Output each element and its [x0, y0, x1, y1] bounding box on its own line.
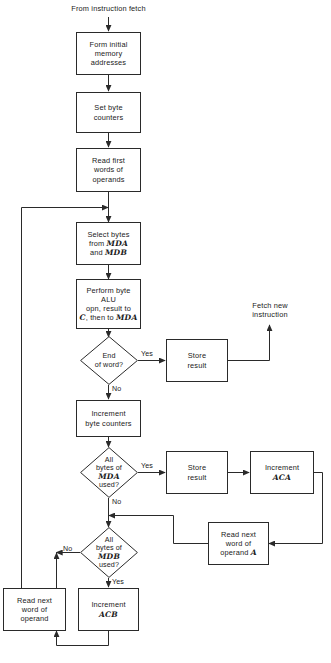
edge-label-mda-yes: Yes: [141, 462, 153, 470]
node-line: opn, result to: [78, 304, 139, 313]
node-text: , then to: [86, 313, 116, 322]
edge-label-mdb-yes: Yes: [112, 578, 124, 586]
register-acb: ACB: [80, 610, 137, 619]
node-text: operand: [220, 548, 250, 557]
node-line: operands: [78, 175, 139, 184]
node-line: of word?: [80, 361, 138, 369]
node-line: Read first: [78, 156, 139, 165]
node-line: Perform byte: [78, 286, 139, 295]
flowchart-canvas: From instruction fetch Form initial memo…: [0, 0, 331, 663]
start-label: From instruction fetch: [60, 4, 157, 13]
fetch-new-instruction-label: Fetch new instruction: [238, 301, 302, 320]
operand-a: A: [251, 548, 257, 557]
node-line: Read next: [210, 530, 267, 539]
node-line: Store: [168, 351, 226, 360]
node-line: words of: [78, 165, 139, 174]
node-line: operand A: [210, 548, 267, 557]
node-text: and: [90, 248, 105, 257]
node-increment-aca[interactable]: Increment ACA: [250, 451, 314, 494]
decision-end-of-word[interactable]: End of word?: [80, 336, 138, 385]
node-line: Increment: [252, 463, 312, 472]
node-line: from MDA: [78, 239, 139, 248]
node-line: Form initial: [78, 40, 139, 49]
node-line: Increment: [80, 600, 137, 609]
node-read-first-words-of-operands[interactable]: Read first words of operands: [76, 148, 141, 192]
decision-all-bytes-mda-used[interactable]: All bytes of MDA used?: [80, 447, 138, 498]
node-line: Read next: [5, 596, 64, 605]
node-line: memory: [78, 49, 139, 58]
node-increment-byte-counters[interactable]: Increment byte counters: [76, 400, 141, 437]
node-line: ALU: [78, 295, 139, 304]
node-line: Select bytes: [78, 230, 139, 239]
node-line: Store: [168, 463, 226, 472]
register-mdb: MDB: [105, 248, 127, 257]
node-read-next-word-operand[interactable]: Read next word of operand: [3, 588, 66, 631]
node-line: byte counters: [78, 419, 139, 428]
start-label-text: From instruction fetch: [71, 4, 145, 13]
node-line: C, then to MDA: [78, 313, 139, 322]
node-line: word of: [210, 539, 267, 548]
node-line: Set byte: [78, 103, 139, 112]
edge-label-end-word-no: No: [112, 385, 121, 393]
node-increment-acb[interactable]: Increment ACB: [78, 588, 139, 631]
node-line: result: [168, 361, 226, 370]
node-line: result: [168, 473, 226, 482]
register-mda: MDA: [116, 313, 137, 322]
node-line: addresses: [78, 58, 139, 67]
node-line: operand: [5, 614, 64, 623]
node-line: used?: [80, 561, 138, 569]
register-mda: MDA: [107, 239, 128, 248]
node-store-result-top[interactable]: Store result: [166, 339, 228, 382]
decision-all-bytes-mdb-used[interactable]: All bytes of MDB used?: [80, 527, 138, 578]
node-perform-byte-alu[interactable]: Perform byte ALU opn, result to C, then …: [76, 279, 141, 329]
node-line: instruction: [238, 310, 302, 319]
register-aca: ACA: [252, 473, 312, 482]
node-form-initial-memory-addresses[interactable]: Form initial memory addresses: [76, 32, 141, 75]
node-select-bytes[interactable]: Select bytes from MDA and MDB: [76, 222, 141, 265]
connector-lines: [0, 0, 331, 663]
node-line: counters: [78, 113, 139, 122]
node-line: and MDB: [78, 248, 139, 257]
node-read-next-word-operand-a[interactable]: Read next word of operand A: [208, 522, 269, 565]
node-line: Increment: [78, 409, 139, 418]
node-line: used?: [80, 481, 138, 489]
edge-label-mda-no: No: [112, 498, 121, 506]
node-text: from: [89, 239, 107, 248]
edge-label-end-word-yes: Yes: [141, 350, 153, 358]
node-store-result-middle[interactable]: Store result: [166, 451, 228, 494]
node-set-byte-counters[interactable]: Set byte counters: [76, 92, 141, 133]
node-line: Fetch new: [238, 301, 302, 310]
node-line: word of: [5, 605, 64, 614]
edge-label-mdb-no: No: [63, 545, 72, 553]
